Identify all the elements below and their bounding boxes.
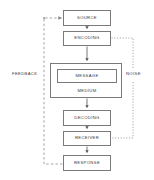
node-message-label: MESSAGE [75,74,98,78]
node-source[interactable]: SOURCE [63,10,111,26]
node-medium-label: MEDIUM [77,89,96,93]
node-decoding[interactable]: DECODING [63,110,111,126]
node-decoding-label: DECODING [74,116,99,120]
node-medium[interactable]: MESSAGE MEDIUM [50,63,122,98]
node-encoding[interactable]: ENCODING [63,31,111,46]
node-source-label: SOURCE [77,16,97,20]
annotation-noise: NOISE [126,72,141,76]
diagram-canvas: SOURCE ENCODING MESSAGE MEDIUM DECODING … [0,0,154,180]
node-medium-label-wrap: MEDIUM [51,85,123,98]
node-encoding-label: ENCODING [74,36,99,40]
node-receiver[interactable]: RECEIVER [63,131,111,146]
node-receiver-label: RECEIVER [75,136,99,140]
node-response[interactable]: RESPONSE [63,155,111,171]
node-message[interactable]: MESSAGE [57,69,117,83]
node-response-label: RESPONSE [74,161,100,165]
annotation-feedback: FEEDBACK [12,72,37,76]
